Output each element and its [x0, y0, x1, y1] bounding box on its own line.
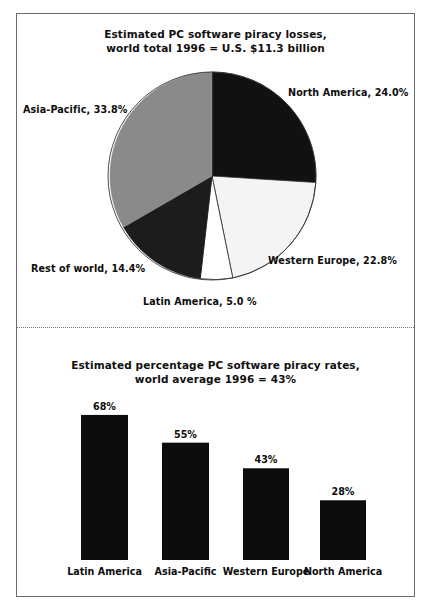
bar-group-1: 55% Asia-Pacific: [155, 429, 217, 577]
pie-title-line-2: world total 1996 = U.S. $11.3 billion: [16, 41, 415, 55]
bar-category-north-america: North America: [304, 566, 382, 577]
bar-value-latin-america: 68%: [93, 401, 116, 412]
bar-asia-pacific: [162, 443, 209, 560]
bar-chart-title: Estimated percentage PC software piracy …: [16, 358, 415, 386]
bar-latin-america: [81, 415, 128, 560]
bar-group-3: 28% North America: [304, 486, 382, 577]
bar-north-america: [320, 500, 366, 560]
bar-group-2: 43% Western Europe: [223, 454, 310, 577]
pie-label-north-america: North America, 24.0%: [288, 87, 408, 98]
pie-label-rest-of-world: Rest of world, 14.4%: [31, 263, 145, 274]
bar-value-north-america: 28%: [332, 486, 355, 497]
bar-western-europe: [243, 468, 289, 560]
bar-group-0: 68% Latin America: [67, 401, 142, 577]
bar-category-latin-america: Latin America: [67, 566, 142, 577]
bar-title-line-1: Estimated percentage PC software piracy …: [16, 358, 415, 372]
figure-canvas: Estimated PC software piracy losses, wor…: [0, 0, 431, 609]
pie-chart: [106, 70, 318, 282]
bar-title-line-2: world average 1996 = 43%: [16, 372, 415, 386]
pie-chart-title: Estimated PC software piracy losses, wor…: [16, 27, 415, 55]
pie-slices: [110, 72, 316, 280]
pie-title-line-1: Estimated PC software piracy losses,: [16, 27, 415, 41]
pie-label-asia-pacific: Asia-Pacific, 33.8%: [23, 104, 127, 115]
bar-chart: 68% Latin America 55% Asia-Pacific 43% W…: [16, 390, 415, 590]
pie-label-western-europe: Western Europe, 22.8%: [268, 255, 397, 266]
bar-svg: 68% Latin America 55% Asia-Pacific 43% W…: [16, 390, 415, 590]
pie-svg: [106, 70, 318, 282]
bar-value-asia-pacific: 55%: [174, 429, 197, 440]
panel-divider: [17, 327, 414, 328]
pie-label-latin-america: Latin America, 5.0 %: [143, 296, 257, 307]
bar-series: 68% Latin America 55% Asia-Pacific 43% W…: [67, 401, 382, 577]
bar-category-western-europe: Western Europe: [223, 566, 310, 577]
bar-category-asia-pacific: Asia-Pacific: [155, 566, 217, 577]
bar-value-western-europe: 43%: [255, 454, 278, 465]
